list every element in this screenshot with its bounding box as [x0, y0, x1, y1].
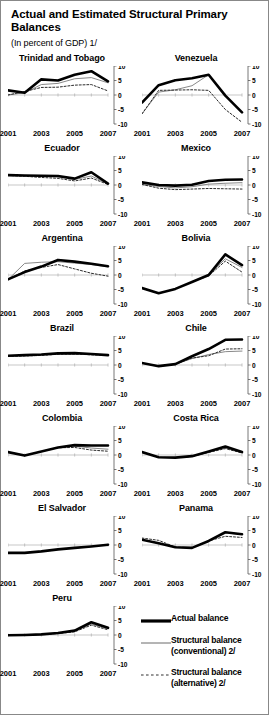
x-tick-label: 2001: [0, 489, 16, 498]
x-tick-label: 2003: [33, 579, 50, 588]
x-tick-label: 2007: [100, 219, 117, 228]
plot-area: 1050-5-10: [8, 426, 136, 488]
svg-text:0: 0: [252, 272, 256, 279]
legend-swatch-thick-solid: [141, 613, 171, 624]
figure-container: Actual and Estimated Structural Primary …: [0, 0, 269, 715]
svg-text:-10: -10: [118, 301, 128, 308]
svg-text:0: 0: [118, 632, 122, 639]
x-tick-label: 2001: [0, 129, 16, 138]
svg-text:5: 5: [118, 437, 122, 444]
svg-text:10: 10: [118, 426, 126, 430]
svg-text:10: 10: [118, 246, 126, 250]
svg-text:-5: -5: [252, 106, 258, 113]
chart-panel: Ecuador1050-5-102001200320052007: [3, 143, 135, 233]
svg-text:0: 0: [118, 272, 122, 279]
legend-swatch-dotted: [141, 667, 171, 678]
svg-text:-5: -5: [252, 556, 258, 563]
chart-panel: Argentina1050-5-102001200320052007: [3, 233, 135, 323]
chart-panel: Chile1050-5-102001200320052007: [137, 323, 269, 413]
x-tick-label: 2001: [0, 309, 16, 318]
x-axis-labels: 2001200320052007: [8, 579, 126, 591]
figure-subtitle: (In percent of GDP) 1/: [11, 37, 258, 49]
svg-text:-10: -10: [118, 481, 128, 488]
panel-title: Chile: [137, 323, 255, 333]
svg-text:0: 0: [118, 452, 122, 459]
svg-text:5: 5: [252, 437, 256, 444]
svg-text:0: 0: [118, 182, 122, 189]
svg-text:10: 10: [118, 606, 126, 610]
x-tick-label: 2001: [0, 399, 16, 408]
svg-text:0: 0: [252, 542, 256, 549]
chart-panel: Colombia1050-5-102001200320052007: [3, 413, 135, 503]
x-axis-labels: 2001200320052007: [142, 399, 260, 411]
panel-title: Venezuela: [137, 53, 255, 63]
chart-panel: Mexico1050-5-102001200320052007: [137, 143, 269, 233]
svg-text:-5: -5: [118, 286, 124, 293]
x-tick-label: 2005: [200, 399, 217, 408]
x-axis-labels: 2001200320052007: [8, 399, 126, 411]
x-tick-label: 2003: [167, 399, 184, 408]
panel-title: Colombia: [3, 413, 121, 423]
panel-title: Ecuador: [3, 143, 121, 153]
svg-text:-10: -10: [118, 211, 128, 218]
x-tick-label: 2005: [200, 309, 217, 318]
x-tick-label: 2003: [33, 219, 50, 228]
plot-area: 1050-5-10: [142, 426, 269, 488]
x-tick-label: 2003: [33, 489, 50, 498]
svg-text:5: 5: [118, 77, 122, 84]
panel-title: Bolivia: [137, 233, 255, 243]
x-tick-label: 2007: [234, 129, 251, 138]
svg-text:0: 0: [118, 92, 122, 99]
legend-label-alternative: Structural balance (alternative) 2/: [171, 667, 267, 688]
plot-area: 1050-5-10: [142, 246, 269, 308]
svg-text:10: 10: [252, 66, 260, 70]
plot-area: 1050-5-10: [8, 156, 136, 218]
svg-text:-5: -5: [118, 466, 124, 473]
legend-item-conventional: Structural balance (conventional) 2/: [141, 635, 267, 656]
chart-panel: Costa Rica1050-5-102001200320052007: [137, 413, 269, 503]
chart-panel: Panama1050-5-102001200320052007: [137, 503, 269, 593]
x-tick-label: 2001: [134, 129, 151, 138]
x-tick-label: 2001: [0, 579, 16, 588]
x-tick-label: 2003: [167, 219, 184, 228]
x-tick-label: 2001: [134, 399, 151, 408]
x-tick-label: 2001: [134, 219, 151, 228]
panel-title: El Salvador: [3, 503, 121, 513]
plot-area: 1050-5-10: [8, 66, 136, 128]
x-tick-label: 2001: [0, 669, 16, 678]
svg-text:-10: -10: [118, 391, 128, 398]
legend-label-conventional: Structural balance (conventional) 2/: [171, 635, 267, 656]
x-axis-labels: 2001200320052007: [8, 669, 126, 681]
figure-legend: Actual balance Structural balance (conve…: [141, 613, 267, 699]
x-tick-label: 2005: [66, 579, 83, 588]
x-tick-label: 2007: [234, 579, 251, 588]
svg-text:-5: -5: [118, 376, 124, 383]
plot-area: 1050-5-10: [8, 246, 136, 308]
x-tick-label: 2007: [100, 579, 117, 588]
svg-text:5: 5: [118, 617, 122, 624]
svg-text:10: 10: [252, 426, 260, 430]
x-tick-label: 2003: [33, 129, 50, 138]
svg-text:-5: -5: [118, 106, 124, 113]
panel-title: Argentina: [3, 233, 121, 243]
legend-item-actual: Actual balance: [141, 613, 267, 624]
svg-text:-5: -5: [118, 196, 124, 203]
svg-text:-10: -10: [252, 571, 262, 578]
svg-text:0: 0: [252, 452, 256, 459]
chart-panel: El Salvador1050-5-102001200320052007: [3, 503, 135, 593]
svg-text:10: 10: [252, 246, 260, 250]
x-tick-label: 2003: [167, 489, 184, 498]
x-axis-labels: 2001200320052007: [142, 489, 260, 501]
plot-area: 1050-5-10: [142, 516, 269, 578]
svg-text:0: 0: [252, 92, 256, 99]
x-tick-label: 2003: [167, 309, 184, 318]
x-tick-label: 2003: [167, 129, 184, 138]
x-axis-labels: 2001200320052007: [142, 219, 260, 231]
x-axis-labels: 2001200320052007: [142, 579, 260, 591]
x-tick-label: 2007: [100, 669, 117, 678]
svg-text:5: 5: [118, 257, 122, 264]
x-tick-label: 2007: [100, 309, 117, 318]
svg-text:0: 0: [118, 542, 122, 549]
plot-area: 1050-5-10: [8, 336, 136, 398]
x-tick-label: 2003: [33, 309, 50, 318]
